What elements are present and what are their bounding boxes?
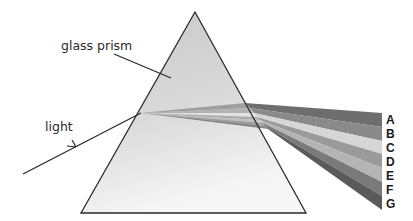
glass-prism-label: glass prism xyxy=(61,40,132,53)
band-label-d: D xyxy=(386,156,395,168)
band-label-g: G xyxy=(386,198,395,210)
prism-diagram xyxy=(0,0,413,221)
arrow-icon xyxy=(67,140,76,147)
band-label-b: B xyxy=(386,128,395,140)
band-label-a: A xyxy=(386,114,395,126)
band-label-c: C xyxy=(386,142,395,154)
light-label: light xyxy=(45,121,73,134)
band-label-e: E xyxy=(386,170,394,182)
prism-leader-line xyxy=(114,54,171,78)
band-label-f: F xyxy=(386,184,393,196)
